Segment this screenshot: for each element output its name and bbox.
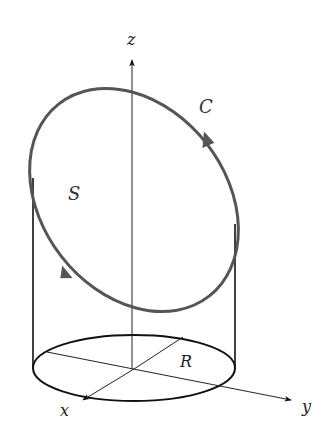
base-circle bbox=[33, 335, 235, 401]
y-axis-label: y bbox=[301, 397, 312, 416]
curve-arrow-upper-right-icon bbox=[197, 129, 214, 148]
cylinder-stokes-diagram: z x y R C S bbox=[0, 0, 333, 436]
curve-label: C bbox=[199, 96, 213, 117]
x-axis bbox=[83, 369, 134, 400]
y-axis bbox=[47, 352, 291, 400]
surface-label: S bbox=[68, 183, 80, 204]
radius-label: R bbox=[179, 352, 192, 371]
x-axis-label: x bbox=[60, 401, 69, 420]
z-axis-label: z bbox=[126, 30, 136, 49]
radius-line bbox=[134, 337, 183, 369]
curve-c bbox=[0, 47, 282, 353]
